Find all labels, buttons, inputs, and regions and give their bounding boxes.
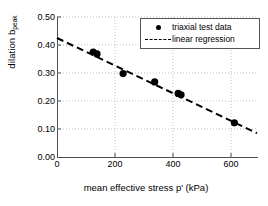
chart-legend: triaxial test data linear regression bbox=[140, 18, 260, 49]
y-axis-title-subscript: peak bbox=[11, 15, 18, 29]
y-axis-ticks bbox=[57, 17, 61, 129]
data-point bbox=[177, 91, 184, 98]
y-tick-label-020: 0.20 bbox=[21, 97, 55, 106]
chart-figure: dilation bpeak 0.50 0.40 0.30 0.20 0.10 … bbox=[0, 0, 268, 206]
linear-regression-line bbox=[57, 38, 257, 133]
data-point bbox=[151, 78, 158, 85]
y-axis-title-text: dilation b bbox=[6, 30, 17, 69]
x-axis-ticks bbox=[115, 153, 231, 157]
legend-item-triaxial-test-data: triaxial test data bbox=[144, 21, 256, 33]
data-point bbox=[93, 50, 100, 57]
y-tick-label-040: 0.40 bbox=[21, 41, 55, 50]
y-axis-title: dilation bpeak bbox=[6, 0, 18, 102]
y-tick-label-050: 0.50 bbox=[21, 13, 55, 22]
legend-label-linear-regression: linear regression bbox=[172, 34, 235, 44]
x-axis-title: mean effective stress p' (kPa) bbox=[30, 182, 262, 193]
dashed-line-icon bbox=[144, 39, 172, 40]
marker-dot-icon bbox=[144, 25, 172, 30]
data-point bbox=[231, 119, 238, 126]
y-tick-label-010: 0.10 bbox=[21, 125, 55, 134]
data-point-group bbox=[90, 48, 238, 126]
y-tick-label-030: 0.30 bbox=[21, 69, 55, 78]
legend-label-triaxial-test-data: triaxial test data bbox=[172, 22, 232, 32]
data-point bbox=[119, 70, 126, 77]
legend-item-linear-regression: linear regression bbox=[144, 33, 256, 45]
